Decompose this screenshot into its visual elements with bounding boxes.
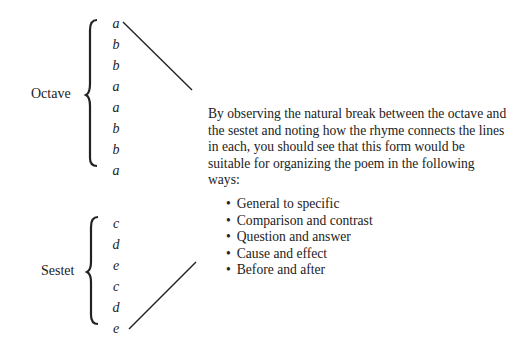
rhyme-letter: c [110, 216, 122, 232]
rhyme-letter: d [110, 300, 122, 316]
organization-ways-list: General to specific Comparison and contr… [226, 196, 373, 279]
list-item: Before and after [226, 262, 373, 279]
rhyme-letter: c [110, 279, 122, 295]
rhyme-letter: a [110, 163, 122, 179]
rhyme-letter: e [110, 258, 122, 274]
octave-brace [86, 20, 97, 166]
rhyme-letter: d [110, 237, 122, 253]
sestet-brace [87, 217, 98, 324]
list-item: General to specific [226, 196, 373, 213]
sestet-label: Sestet [41, 263, 74, 279]
list-item: Cause and effect [226, 246, 373, 263]
rhyme-letter: a [110, 79, 122, 95]
list-item: Comparison and contrast [226, 213, 373, 230]
octave-label: Octave [31, 86, 71, 102]
list-item: Question and answer [226, 229, 373, 246]
sestet-connector-line [129, 262, 196, 329]
rhyme-letter: e [110, 321, 122, 337]
octave-connector-line [123, 22, 192, 90]
rhyme-letter: b [110, 37, 122, 53]
rhyme-letter: b [110, 121, 122, 137]
rhyme-letter: a [110, 100, 122, 116]
rhyme-letter: a [110, 16, 122, 32]
rhyme-letter: b [110, 58, 122, 74]
rhyme-letter: b [110, 142, 122, 158]
explanation-paragraph: By observing the natural break between t… [208, 106, 508, 189]
